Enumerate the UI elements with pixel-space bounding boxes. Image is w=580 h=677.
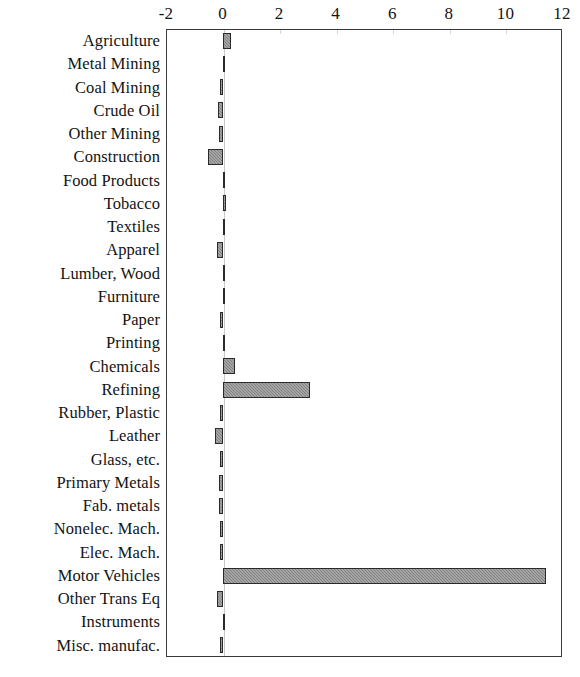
chart-row: Construction [0, 145, 580, 168]
x-tick-label-2: 2 [257, 4, 301, 24]
category-label: Other Trans Eq [0, 587, 160, 610]
category-label: Agriculture [0, 29, 160, 52]
chart-row: Refining [0, 378, 580, 401]
chart-row: Primary Metals [0, 471, 580, 494]
category-label: Fab. metals [0, 494, 160, 517]
x-tick-label-8: 8 [427, 4, 471, 24]
bar [223, 195, 226, 211]
category-label: Printing [0, 331, 160, 354]
bar [208, 149, 222, 165]
category-label: Misc. manufac. [0, 634, 160, 657]
bar [218, 102, 222, 118]
bar [217, 591, 222, 607]
bar [219, 498, 223, 514]
bar [223, 288, 226, 304]
bar [223, 568, 547, 584]
category-label: Metal Mining [0, 52, 160, 75]
category-label: Furniture [0, 285, 160, 308]
x-tick-label-neg2: -2 [144, 4, 188, 24]
category-label: Motor Vehicles [0, 564, 160, 587]
chart-row: Instruments [0, 610, 580, 633]
chart-row: Rubber, Plastic [0, 401, 580, 424]
category-label: Construction [0, 145, 160, 168]
chart-row: Other Trans Eq [0, 587, 580, 610]
chart-row: Elec. Mach. [0, 541, 580, 564]
bar [223, 219, 226, 235]
x-tick-label-12: 12 [540, 4, 580, 24]
horizontal-bar-chart: -2024681012 AgricultureMetal MiningCoal … [0, 0, 580, 677]
bar [220, 312, 223, 328]
chart-row: Apparel [0, 238, 580, 261]
category-label: Rubber, Plastic [0, 401, 160, 424]
category-label: Refining [0, 378, 160, 401]
bar [223, 358, 236, 374]
chart-row: Motor Vehicles [0, 564, 580, 587]
category-label: Glass, etc. [0, 448, 160, 471]
bar [219, 126, 222, 142]
category-label: Apparel [0, 238, 160, 261]
chart-row: Chemicals [0, 355, 580, 378]
category-label: Paper [0, 308, 160, 331]
chart-row: Tobacco [0, 192, 580, 215]
category-label: Food Products [0, 169, 160, 192]
chart-row: Furniture [0, 285, 580, 308]
category-label: Nonelec. Mach. [0, 517, 160, 540]
bar [223, 335, 226, 351]
chart-row: Other Mining [0, 122, 580, 145]
bar [220, 521, 223, 537]
bar [215, 428, 223, 444]
bar [223, 33, 231, 49]
x-tick-label-0: 0 [201, 4, 245, 24]
category-label: Tobacco [0, 192, 160, 215]
chart-row: Lumber, Wood [0, 262, 580, 285]
chart-row: Metal Mining [0, 52, 580, 75]
bar [223, 265, 226, 281]
chart-row: Fab. metals [0, 494, 580, 517]
chart-row: Paper [0, 308, 580, 331]
bar [220, 79, 223, 95]
bar [223, 614, 226, 630]
x-tick-label-10: 10 [483, 4, 527, 24]
chart-row: Textiles [0, 215, 580, 238]
category-label: Coal Mining [0, 76, 160, 99]
category-label: Primary Metals [0, 471, 160, 494]
category-label: Chemicals [0, 355, 160, 378]
chart-row: Food Products [0, 169, 580, 192]
chart-row: Leather [0, 424, 580, 447]
chart-row: Printing [0, 331, 580, 354]
bar [220, 405, 223, 421]
bar [223, 382, 311, 398]
chart-row: Coal Mining [0, 76, 580, 99]
category-label: Textiles [0, 215, 160, 238]
x-tick-label-6: 6 [370, 4, 414, 24]
category-label: Other Mining [0, 122, 160, 145]
chart-row: Agriculture [0, 29, 580, 52]
bar [220, 451, 223, 467]
bar [223, 56, 226, 72]
category-label: Crude Oil [0, 99, 160, 122]
bar [219, 475, 223, 491]
x-tick-label-4: 4 [314, 4, 358, 24]
chart-row: Crude Oil [0, 99, 580, 122]
chart-row: Misc. manufac. [0, 634, 580, 657]
category-label: Instruments [0, 610, 160, 633]
bar [217, 242, 223, 258]
bar [220, 544, 223, 560]
category-label: Elec. Mach. [0, 541, 160, 564]
bar [223, 172, 226, 188]
category-label: Lumber, Wood [0, 262, 160, 285]
category-label: Leather [0, 424, 160, 447]
bar [220, 637, 223, 653]
chart-row: Nonelec. Mach. [0, 517, 580, 540]
chart-row: Glass, etc. [0, 448, 580, 471]
